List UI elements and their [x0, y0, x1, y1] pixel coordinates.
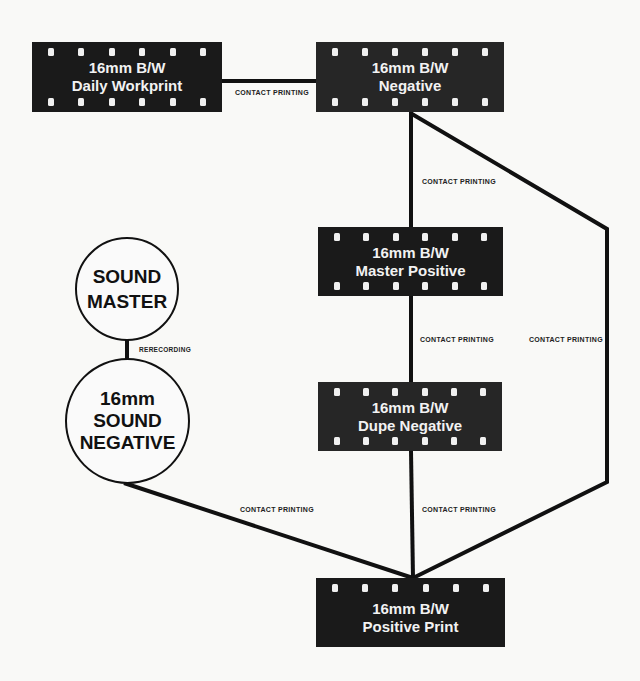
sprocket-holes-top	[32, 48, 222, 56]
edge-label-dupe-print: CONTACT PRINTING	[422, 506, 496, 513]
node-dupe-negative: 16mm B/WDupe Negative	[318, 382, 502, 451]
edge-label-workprint-negative: CONTACT PRINTING	[235, 89, 309, 96]
node-title: 16mm	[80, 388, 176, 410]
node-master-positive: 16mm B/WMaster Positive	[318, 227, 503, 296]
node-negative: 16mm B/WNegative	[316, 42, 504, 112]
node-subtitle: SOUND	[80, 410, 176, 432]
edge-label-rerecording: RERECORDING	[139, 346, 191, 353]
node-subtitle: Dupe Negative	[318, 417, 502, 435]
sprocket-holes-bottom	[318, 437, 502, 445]
node-title: 16mm B/W	[32, 59, 222, 77]
node-title: 16mm B/W	[316, 59, 504, 77]
sprocket-holes-top	[318, 388, 502, 396]
node-subtitle: Daily Workprint	[32, 77, 222, 95]
edge-label-negative-print: CONTACT PRINTING	[529, 336, 603, 343]
edge-label-soundneg-print: CONTACT PRINTING	[240, 506, 314, 513]
node-daily-workprint: 16mm B/WDaily Workprint	[32, 42, 222, 112]
node-title: 16mm B/W	[318, 399, 502, 417]
node-subtitle: MASTER	[87, 289, 167, 314]
node-subtitle-2: NEGATIVE	[80, 432, 176, 454]
edge-soundneg-print	[124, 483, 413, 578]
node-sound-master: SOUNDMASTER	[75, 237, 179, 341]
sprocket-holes-top	[316, 584, 505, 592]
node-title: 16mm B/W	[316, 600, 505, 618]
node-positive-print: 16mm B/WPositive Print	[316, 578, 505, 647]
sprocket-holes-top	[316, 48, 504, 56]
node-subtitle: Negative	[316, 77, 504, 95]
node-title: 16mm B/W	[318, 244, 503, 262]
node-sound-negative: 16mmSOUNDNEGATIVE	[65, 358, 190, 484]
sprocket-holes-top	[318, 233, 503, 241]
edge-label-master-dupe: CONTACT PRINTING	[420, 336, 494, 343]
node-title: SOUND	[87, 264, 167, 289]
sprocket-holes-bottom	[318, 282, 503, 290]
edge-label-negative-master: CONTACT PRINTING	[422, 178, 496, 185]
node-subtitle: Master Positive	[318, 262, 503, 280]
sprocket-holes-bottom	[316, 98, 504, 106]
edge-dupe-print	[411, 451, 413, 578]
node-subtitle: Positive Print	[316, 618, 505, 636]
sprocket-holes-bottom	[32, 98, 222, 106]
